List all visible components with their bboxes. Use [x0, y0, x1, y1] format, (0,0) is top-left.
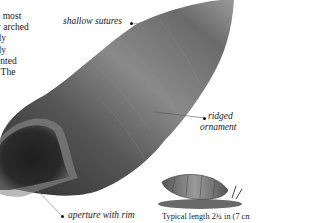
- pointer-dot: [61, 215, 64, 218]
- pointer-dot: [203, 117, 206, 120]
- label-shallow-sutures: shallow sutures: [63, 16, 122, 27]
- pointer-dot: [130, 22, 133, 25]
- label-aperture: aperture with rim: [68, 210, 135, 221]
- label-ridged: ridged: [208, 111, 233, 122]
- label-ornament: ornament: [200, 122, 236, 133]
- size-caption: Typical length 2¾ in (7 cm): [162, 212, 250, 221]
- snail-thumbnail: [158, 174, 242, 209]
